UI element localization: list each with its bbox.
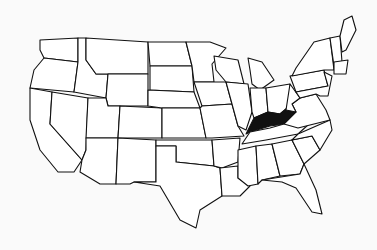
states-group (30, 16, 356, 228)
us-map (0, 0, 377, 250)
state-kansas (162, 108, 206, 138)
state-colorado (118, 106, 162, 138)
state-wyoming (106, 74, 148, 106)
state-massachusetts-ct-ri (334, 60, 348, 74)
state-arkansas (212, 138, 240, 168)
state-mississippi (238, 146, 258, 186)
state-new-mexico (116, 138, 156, 184)
state-north-dakota (148, 42, 192, 66)
state-iowa (194, 82, 232, 106)
state-wisconsin (214, 56, 244, 84)
state-nebraska (148, 90, 200, 108)
state-maine (340, 16, 356, 52)
state-michigan (248, 58, 274, 90)
state-new-york (292, 38, 334, 76)
state-arizona (80, 138, 118, 184)
state-oregon (30, 58, 78, 92)
state-south-dakota (150, 66, 194, 92)
state-montana (86, 38, 148, 74)
